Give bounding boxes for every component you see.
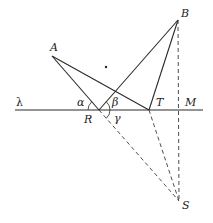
label-B: B [180, 7, 189, 20]
center-dot [105, 66, 107, 68]
label-lambda: λ [16, 96, 23, 109]
label-alpha: α [77, 96, 85, 109]
label-A: A [49, 41, 58, 54]
segment-RS-dashed [99, 110, 179, 201]
label-R: R [83, 113, 92, 126]
label-M: M [184, 96, 197, 109]
angle-beta-arc [106, 102, 110, 110]
angle-alpha-arc [88, 102, 92, 110]
segment-AT [52, 56, 149, 110]
label-beta: β [111, 96, 118, 109]
angle-gamma-arc [106, 110, 110, 118]
segment-TS-dashed [149, 110, 179, 201]
label-T: T [156, 96, 165, 109]
label-gamma: γ [114, 112, 121, 125]
label-S: S [182, 199, 190, 212]
segment-TB [149, 20, 178, 110]
reflection-diagram: λ A B R T M S α β γ [0, 0, 213, 223]
segment-RB [99, 20, 178, 110]
